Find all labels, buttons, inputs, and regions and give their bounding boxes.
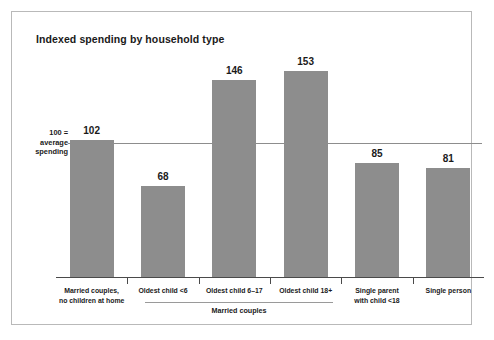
bar-value-6: 81 [443, 153, 454, 164]
bar-value-3: 146 [226, 65, 243, 76]
group-label-married-couples: Married couples [145, 306, 333, 315]
bar-single-person[interactable] [426, 168, 470, 278]
category-label-line: with child <18 [329, 296, 425, 306]
chart-figure: Indexed spending by household type 100 =… [0, 0, 494, 340]
axis-tick-1 [127, 277, 128, 284]
category-label-line: no children at home [44, 296, 140, 306]
axis-tick-4 [341, 277, 342, 284]
group-bracket-rule [145, 302, 333, 303]
bar-oldest-child-6-17[interactable] [212, 80, 256, 278]
bar-value-4: 153 [297, 56, 314, 67]
bar-single-parent-with-child[interactable] [355, 163, 399, 278]
axis-tick-3 [270, 277, 271, 284]
axis-tick-2 [199, 277, 200, 284]
bar-slot-3: 146 [199, 48, 270, 278]
bar-slot-1: 102 [56, 48, 127, 278]
category-label-line: Single person [400, 286, 494, 296]
category-label-single-person: Single person [400, 286, 494, 296]
plot-area: 102 68 146 153 85 81 [56, 48, 484, 278]
bar-value-1: 102 [83, 125, 100, 136]
bar-value-5: 85 [371, 148, 382, 159]
bar-slot-4: 153 [270, 48, 341, 278]
bar-slot-5: 85 [341, 48, 412, 278]
bar-oldest-child-under-6[interactable] [141, 186, 185, 278]
bar-married-couples-no-children[interactable] [70, 140, 114, 278]
bar-value-2: 68 [157, 171, 168, 182]
axis-tick-5 [413, 277, 414, 284]
bar-oldest-child-18-plus[interactable] [284, 71, 328, 278]
bar-slot-6: 81 [413, 48, 484, 278]
chart-frame: Indexed spending by household type 100 =… [11, 11, 472, 325]
page-title: Indexed spending by household type [36, 33, 224, 45]
bar-slot-2: 68 [127, 48, 198, 278]
